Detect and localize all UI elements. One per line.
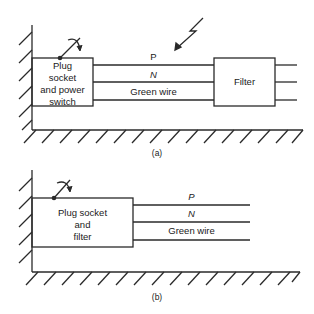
lightning-arrow-icon [175,18,203,50]
diagram-a-source-label: Plug socket and power switch [32,60,93,108]
diagram-a-filter-label: Filter [214,76,275,88]
diagram-a-wire-label-green: Green wire [93,86,214,98]
source-label-line: socket [32,72,93,84]
rotary-switch-icon [54,180,72,198]
source-label-line: and [32,219,133,231]
diagram-b-ground [26,272,300,285]
diagram-b-source-label: Plug socket and filter [32,207,133,243]
source-label-line: Plug [32,60,93,72]
diagram-a-caption: (a) [137,147,177,159]
source-label-line: Plug socket [32,207,133,219]
rotary-switch-icon [60,38,82,58]
diagram-a-wall [19,25,32,130]
diagram-b-caption: (b) [137,291,177,303]
source-label-line: switch [32,96,93,108]
switch-pivot-dot [52,196,57,201]
diagram-a-ground [24,130,303,143]
diagram-b-wire-label-p: P [133,191,250,203]
diagram-a-wire-label-n: N [93,69,214,81]
source-label-line: and power [32,84,93,96]
diagram-b-wire-label-green: Green wire [133,225,250,237]
diagram-b-wire-label-n: N [133,208,250,220]
source-label-line: filter [32,231,133,243]
diagram-b-wall [19,170,32,272]
diagram-a-wire-label-p: P [93,51,214,63]
